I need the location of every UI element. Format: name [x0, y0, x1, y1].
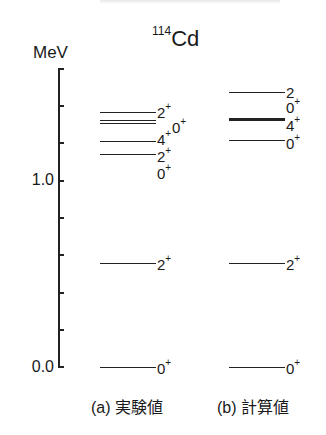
axis-tick [58, 366, 64, 368]
axis-tick [58, 68, 64, 70]
level-label-b: 0+ [286, 96, 300, 115]
level-line-a [100, 112, 156, 113]
axis-tick [58, 105, 64, 107]
tick-label-1: 1.0 [14, 171, 54, 189]
diagram-title: 114Cd [152, 26, 199, 52]
level-line-a [100, 141, 156, 142]
axis-tick [58, 329, 64, 331]
level-label-b: 0+ [286, 357, 300, 376]
level-line-b-degenerate [229, 118, 285, 121]
column-label-calculated: (b) 計算値 [217, 394, 289, 418]
level-label-a: 0+ [157, 357, 171, 376]
level-label-b: 0+ [286, 132, 300, 151]
level-line-b [229, 263, 285, 264]
level-line-a [100, 154, 156, 155]
level-line-a [100, 367, 156, 368]
element-symbol: Cd [171, 26, 199, 51]
level-line-a [100, 263, 156, 264]
axis-tick [58, 217, 64, 219]
level-line-b [229, 367, 285, 368]
axis-tick [58, 254, 64, 256]
mass-number: 114 [152, 24, 171, 38]
axis-unit: MeV [33, 43, 68, 63]
level-label-a: 2+ [157, 253, 171, 272]
level-label-a: 2+ [157, 101, 171, 120]
axis-tick [58, 142, 64, 144]
cropped-caption [100, 0, 280, 4]
level-line-b [229, 92, 285, 93]
level-label-a: 0+ [157, 162, 171, 181]
tick-label-0: 0.0 [14, 358, 54, 376]
column-label-experimental: (a) 実験値 [91, 394, 163, 418]
axis-tick [58, 292, 64, 294]
level-line-b [229, 140, 285, 141]
level-label-a: 0+ [172, 116, 186, 135]
axis-tick [58, 180, 64, 182]
level-label-b: 2+ [286, 253, 300, 272]
level-line-a [100, 120, 156, 121]
level-line-a [100, 123, 156, 124]
level-label-b: 4+ [286, 114, 300, 133]
